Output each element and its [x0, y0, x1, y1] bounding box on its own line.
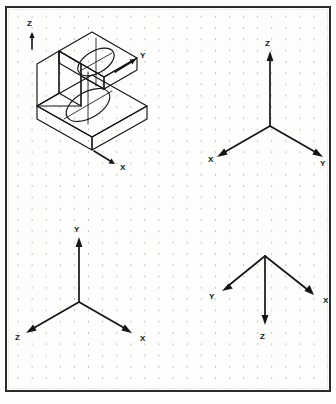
iso-axis-label-x: X [120, 164, 125, 172]
iso-axis-label-z: Z [27, 20, 32, 28]
triad1-axis-z [267, 51, 274, 126]
triad2-axis-x [79, 302, 132, 333]
triad2-axis-label-x: X [140, 335, 145, 343]
lower-slab-left-face [37, 106, 92, 150]
triad3-axis-label-y: Y [209, 293, 214, 301]
iso-axis-z [29, 32, 34, 49]
drawing-artwork [0, 0, 336, 404]
triad3-axis-label-x: X [323, 297, 328, 305]
axis-triad-bottom-right-group [222, 256, 314, 325]
triad1-axis-x [217, 126, 270, 157]
web-left-outer-face [37, 51, 59, 106]
drawing-sheet: Z Y X Z X Y Y Z X Y X Z [0, 0, 336, 404]
iso-axis-y [115, 59, 136, 72]
web-inner-face [59, 51, 81, 106]
triad2-axis-label-y: Y [74, 226, 79, 234]
triad3-axis-y [222, 256, 265, 291]
triad3-axis-z [262, 256, 269, 325]
axis-triad-bottom-left-group [26, 237, 132, 333]
triad1-axis-label-x: X [208, 156, 213, 164]
triad3-axis-label-z: Z [260, 333, 265, 341]
triad2-axis-z [26, 302, 79, 333]
triad2-axis-y [76, 237, 83, 302]
axis-triad-top-right-group [217, 51, 323, 157]
triad1-axis-label-y: Y [320, 160, 325, 168]
hole-centerlines [64, 72, 112, 124]
triad1-axis-y [270, 126, 323, 157]
inner-pocket-edge [81, 76, 104, 89]
iso-axis-label-y: Y [140, 52, 145, 60]
triad3-axis-x [265, 256, 314, 295]
iso-axis-x [94, 151, 115, 164]
isometric-object-group [29, 32, 147, 164]
triad2-axis-label-z: Z [15, 334, 20, 342]
triad1-axis-label-z: Z [265, 40, 270, 48]
